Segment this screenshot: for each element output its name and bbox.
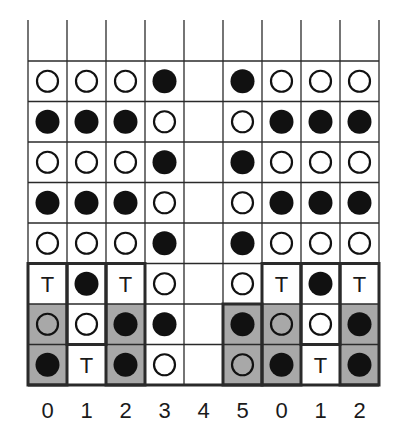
cell-letter-t: T xyxy=(314,353,327,378)
filled-circle-icon xyxy=(75,272,99,296)
hollow-circle-icon xyxy=(349,233,370,254)
filled-circle-icon xyxy=(348,312,372,336)
column-labels: 012345012 xyxy=(41,398,365,423)
filled-circle-icon xyxy=(36,191,60,215)
shaded-cell xyxy=(223,345,262,386)
filled-circle-icon xyxy=(348,353,372,377)
hollow-circle-icon xyxy=(37,152,58,173)
circle-grid-diagram: TTTTTT 012345012 xyxy=(0,0,400,437)
filled-circle-icon xyxy=(114,312,138,336)
filled-circle-icon xyxy=(270,191,294,215)
shaded-cell xyxy=(262,304,301,345)
filled-circle-icon xyxy=(348,110,372,134)
hollow-circle-icon xyxy=(310,233,331,254)
hollow-circle-icon xyxy=(154,111,175,132)
hollow-circle-icon xyxy=(310,71,331,92)
filled-circle-icon xyxy=(309,110,333,134)
cell-letter-t: T xyxy=(353,272,366,297)
filled-circle-icon xyxy=(36,110,60,134)
hollow-circle-icon xyxy=(310,314,331,335)
hollow-circle-icon xyxy=(115,71,136,92)
filled-circle-icon xyxy=(75,191,99,215)
hollow-circle-icon xyxy=(349,71,370,92)
cell-letter-t: T xyxy=(80,353,93,378)
column-label: 1 xyxy=(80,398,92,423)
column-label: 2 xyxy=(353,398,365,423)
filled-circle-icon xyxy=(114,353,138,377)
filled-circle-icon xyxy=(231,231,255,255)
filled-circle-icon xyxy=(309,191,333,215)
hollow-circle-icon xyxy=(310,152,331,173)
column-label: 4 xyxy=(197,398,209,423)
filled-circle-icon xyxy=(309,272,333,296)
filled-circle-icon xyxy=(270,353,294,377)
column-label: 2 xyxy=(119,398,131,423)
hollow-circle-icon xyxy=(154,354,175,375)
filled-circle-icon xyxy=(231,69,255,93)
hollow-circle-icon xyxy=(37,71,58,92)
column-label: 5 xyxy=(236,398,248,423)
hollow-circle-icon xyxy=(76,152,97,173)
hollow-circle-icon xyxy=(232,192,253,213)
filled-circle-icon xyxy=(270,110,294,134)
filled-circle-icon xyxy=(231,312,255,336)
cell-letter-t: T xyxy=(275,272,288,297)
column-label: 0 xyxy=(275,398,287,423)
hollow-circle-icon xyxy=(232,273,253,294)
cell-contents: TTTTTT xyxy=(36,69,372,378)
cell-letter-t: T xyxy=(119,272,132,297)
hollow-circle-icon xyxy=(76,233,97,254)
hollow-circle-icon xyxy=(271,233,292,254)
filled-circle-icon xyxy=(153,150,177,174)
filled-circle-icon xyxy=(153,231,177,255)
column-label: 0 xyxy=(41,398,53,423)
filled-circle-icon xyxy=(153,69,177,93)
hollow-circle-icon xyxy=(154,192,175,213)
hollow-circle-icon xyxy=(76,314,97,335)
hollow-circle-icon xyxy=(271,152,292,173)
shaded-cell xyxy=(28,304,67,345)
hollow-circle-icon xyxy=(154,273,175,294)
hollow-circle-icon xyxy=(115,233,136,254)
filled-circle-icon xyxy=(114,110,138,134)
column-label: 3 xyxy=(158,398,170,423)
filled-circle-icon xyxy=(36,353,60,377)
hollow-circle-icon xyxy=(232,111,253,132)
filled-circle-icon xyxy=(114,191,138,215)
hollow-circle-icon xyxy=(349,152,370,173)
cell-letter-t: T xyxy=(41,272,54,297)
hollow-circle-icon xyxy=(37,233,58,254)
hollow-circle-icon xyxy=(76,71,97,92)
filled-circle-icon xyxy=(75,110,99,134)
filled-circle-icon xyxy=(231,150,255,174)
filled-circle-icon xyxy=(348,191,372,215)
hollow-circle-icon xyxy=(271,71,292,92)
filled-circle-icon xyxy=(153,312,177,336)
hollow-circle-icon xyxy=(115,152,136,173)
column-label: 1 xyxy=(314,398,326,423)
